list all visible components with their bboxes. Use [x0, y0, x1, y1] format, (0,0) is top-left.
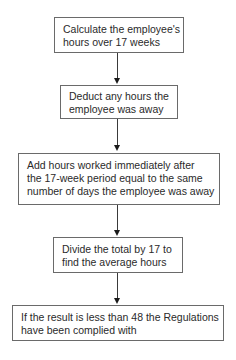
step-compliance-result: If the result is less than 48 the Regula…: [12, 305, 224, 341]
step-text-line: Deduct any hours the: [69, 90, 177, 103]
arrow-down-icon: [114, 145, 120, 151]
arrow-down-icon: [114, 298, 120, 304]
connector-line: [117, 205, 118, 230]
step-text-line: the 17-week period equal to the same: [27, 172, 219, 185]
step-text-line: Add hours worked immediately after: [27, 159, 219, 172]
step-text-line: Divide the total by 17 to: [62, 243, 182, 256]
step-deduct-hours: Deduct any hours the employee was away: [60, 85, 178, 119]
step-calculate-hours: Calculate the employee's hours over 17 w…: [54, 17, 184, 53]
step-text-line: Calculate the employee's: [63, 23, 183, 36]
arrow-down-icon: [114, 78, 120, 84]
step-text-line: hours over 17 weeks: [63, 36, 183, 49]
step-text-line: number of days the employee was away: [27, 185, 219, 198]
step-divide-total: Divide the total by 17 to find the avera…: [53, 237, 183, 273]
connector-line: [117, 273, 118, 298]
step-text-line: employee was away: [69, 103, 177, 116]
step-text-line: find the average hours: [62, 256, 182, 269]
step-text-line: have been complied with: [21, 324, 223, 337]
connector-line: [117, 119, 118, 145]
step-add-hours: Add hours worked immediately after the 1…: [18, 153, 220, 205]
step-text-line: If the result is less than 48 the Regula…: [21, 311, 223, 324]
arrow-down-icon: [114, 230, 120, 236]
connector-line: [117, 53, 118, 78]
